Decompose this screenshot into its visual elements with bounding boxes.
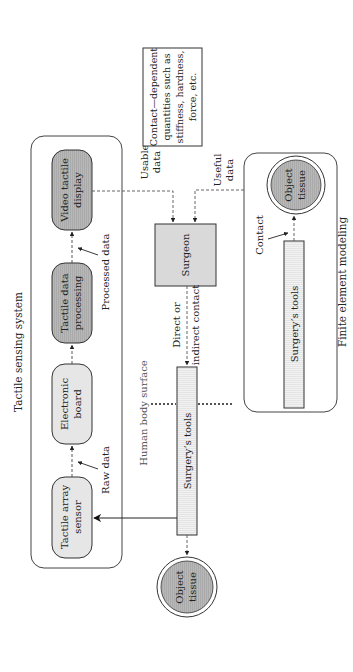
- svg-text:Contact—dependent: Contact—dependent: [148, 48, 159, 147]
- svg-text:Surgeon: Surgeon: [180, 233, 191, 276]
- svg-text:Surgery’s tools: Surgery’s tools: [182, 413, 193, 490]
- contact-label-2: indirect contact: [190, 285, 201, 365]
- contact-dependent-note: Contact—dependent quantities such as sti…: [143, 48, 202, 147]
- svg-text:Electronic: Electronic: [59, 378, 70, 430]
- svg-text:display: display: [72, 172, 83, 208]
- object-tissue-node: Object tissue: [157, 557, 217, 617]
- tactile-sensing-title: Tactile sensing system: [12, 292, 24, 412]
- svg-text:processing: processing: [72, 275, 83, 331]
- usable-data-label-2: data: [151, 151, 162, 173]
- svg-text:Surgery’s tools: Surgery’s tools: [289, 286, 300, 363]
- svg-text:force, etc.: force, etc.: [187, 73, 198, 122]
- surgery-tools-node: Surgery’s tools: [177, 367, 197, 535]
- raw-data-label: Raw data: [100, 446, 111, 494]
- fem-surgery-tools-node: Surgery’s tools: [284, 241, 304, 408]
- contact-label-1: Direct or: [171, 302, 182, 348]
- electronic-board-node: Electronic board: [52, 364, 92, 444]
- svg-text:board: board: [72, 389, 83, 419]
- human-body-surface-label: Human body surface: [138, 360, 149, 465]
- processed-data-pointer: [78, 248, 98, 255]
- useful-data-label-2: data: [224, 159, 235, 181]
- svg-text:quantities such as: quantities such as: [161, 53, 172, 140]
- fem-contact-label: Contact: [254, 215, 265, 255]
- svg-text:Tactile data: Tactile data: [59, 273, 70, 332]
- fem-object-tissue-node: Object tissue: [267, 156, 325, 214]
- tactile-array-sensor-node: Tactile array sensor: [52, 477, 92, 558]
- tactile-data-processing-node: Tactile data processing: [52, 263, 92, 343]
- tactile-sensing-system-group: Tactile sensing system Video tactile dis…: [12, 136, 122, 568]
- fem-contact-pointer: [268, 233, 288, 239]
- raw-data-pointer: [78, 462, 98, 469]
- video-tactile-display-node: Video tactile display: [52, 150, 92, 230]
- surgeon-node: Surgeon: [155, 224, 216, 286]
- svg-text:sensor: sensor: [72, 500, 83, 534]
- svg-text:Object: Object: [283, 168, 294, 201]
- svg-text:Video tactile: Video tactile: [59, 158, 70, 223]
- finite-element-modeling-group: Finite element modeling Object tissue Su…: [244, 153, 348, 412]
- usable-data-connector: [92, 191, 173, 222]
- useful-data-label-1: Useful: [212, 154, 223, 187]
- svg-text:stiffness, hardness,: stiffness, hardness,: [174, 51, 185, 144]
- svg-text:tissue: tissue: [296, 170, 307, 200]
- processed-data-label: Processed data: [100, 233, 111, 310]
- svg-text:Object: Object: [174, 570, 185, 603]
- svg-text:Tactile array: Tactile array: [59, 485, 70, 549]
- useful-data-connector: [195, 190, 244, 222]
- usable-data-label-1: Usable: [139, 144, 150, 179]
- svg-text:tissue: tissue: [187, 572, 198, 602]
- diagram-canvas: Tactile sensing system Video tactile dis…: [0, 0, 353, 672]
- fem-title: Finite element modeling: [336, 217, 348, 348]
